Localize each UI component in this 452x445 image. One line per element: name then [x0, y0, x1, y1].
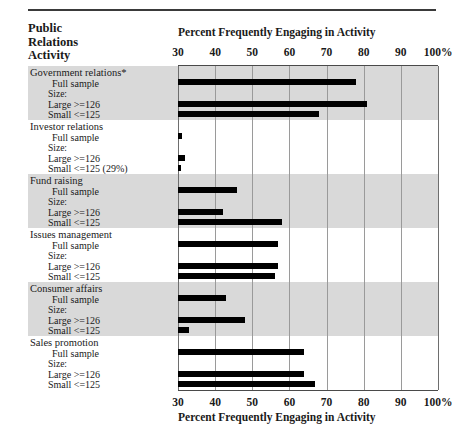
bar — [178, 219, 282, 225]
activity-group-label: Government relations*Full sampleSize:Lar… — [28, 68, 178, 121]
bar — [178, 209, 223, 215]
x-tick-label: 70 — [321, 46, 333, 58]
series-label-small: Small <=125 — [28, 218, 178, 229]
bar — [178, 241, 278, 247]
bar — [178, 155, 185, 161]
bar — [178, 133, 182, 139]
bar-row — [178, 317, 438, 323]
bar — [178, 165, 181, 171]
bar — [178, 371, 304, 377]
activity-name: Investor relations — [28, 122, 178, 133]
activity-name: Government relations* — [28, 68, 178, 79]
bar-row — [178, 273, 438, 279]
x-tick-label: 40 — [209, 396, 221, 408]
top-rule — [28, 9, 436, 11]
gridline — [438, 66, 439, 390]
series-label-small: Small <=125 — [28, 326, 178, 337]
bar-row — [178, 263, 438, 269]
bar-row — [178, 111, 438, 117]
x-tick-label: 70 — [321, 396, 333, 408]
series-label-full-sample: Full sample — [28, 79, 178, 90]
bar-row — [178, 349, 438, 355]
x-tick-label: 90 — [395, 396, 407, 408]
activity-label-column: Government relations*Full sampleSize:Lar… — [28, 66, 178, 390]
bar-row — [178, 165, 438, 171]
row-header-line-1: Public — [28, 22, 168, 36]
x-tick-label: 60 — [284, 396, 296, 408]
series-label-small: Small <=125 — [28, 272, 178, 283]
x-tick-label: 100% — [424, 46, 452, 58]
bar — [178, 317, 245, 323]
series-label-full-sample: Full sample — [28, 133, 178, 144]
bar-row — [178, 155, 438, 161]
x-tick-label: 50 — [247, 396, 259, 408]
x-tick-label: 50 — [247, 46, 259, 58]
axis-title-top: Percent Frequently Engaging in Activity — [178, 26, 444, 38]
bar-row — [178, 79, 438, 85]
bar — [178, 349, 304, 355]
bar-row — [178, 101, 438, 107]
series-label-small: Small <=125 — [28, 110, 178, 121]
bar — [178, 187, 237, 193]
activity-group-label: Consumer affairsFull sampleSize:Large >=… — [28, 284, 178, 337]
bar — [178, 295, 226, 301]
x-tick-label: 80 — [358, 396, 370, 408]
bar — [178, 263, 278, 269]
bar-row — [178, 219, 438, 225]
series-label-full-sample: Full sample — [28, 241, 178, 252]
series-label-small: Small <=125 (29%) — [28, 164, 178, 175]
bar — [178, 101, 367, 107]
bar-row — [178, 209, 438, 215]
series-label-small: Small <=125 — [28, 380, 178, 391]
bar — [178, 327, 189, 333]
axis-line-bottom — [178, 390, 438, 391]
series-label-full-sample: Full sample — [28, 349, 178, 360]
activity-group-label: Fund raisingFull sampleSize:Large >=126S… — [28, 176, 178, 229]
bar-row — [178, 381, 438, 387]
bar-row — [178, 327, 438, 333]
x-axis-ticks-top: 30405060708090100% — [0, 46, 448, 60]
bar-row — [178, 133, 438, 139]
activity-name: Sales promotion — [28, 338, 178, 349]
series-label-full-sample: Full sample — [28, 187, 178, 198]
x-tick-label: 30 — [172, 46, 184, 58]
x-axis-ticks-bottom: 30405060708090100% — [0, 396, 448, 410]
bar-row — [178, 241, 438, 247]
x-tick-label: 90 — [395, 46, 407, 58]
bar — [178, 111, 319, 117]
bar — [178, 79, 356, 85]
activity-group-label: Sales promotionFull sampleSize:Large >=1… — [28, 338, 178, 391]
axis-title-bottom: Percent Frequently Engaging in Activity — [178, 411, 444, 423]
bar-row — [178, 187, 438, 193]
bar-series — [178, 66, 438, 390]
activity-name: Consumer affairs — [28, 284, 178, 295]
bar-row — [178, 295, 438, 301]
activity-name: Issues management — [28, 230, 178, 241]
x-tick-label: 80 — [358, 46, 370, 58]
bar — [178, 381, 315, 387]
activity-group-label: Investor relationsFull sampleSize:Large … — [28, 122, 178, 175]
bar — [178, 273, 275, 279]
activity-name: Fund raising — [28, 176, 178, 187]
x-tick-label: 100% — [424, 396, 452, 408]
series-label-full-sample: Full sample — [28, 295, 178, 306]
activity-group-label: Issues managementFull sampleSize:Large >… — [28, 230, 178, 283]
x-tick-label: 40 — [209, 46, 221, 58]
x-tick-label: 30 — [172, 396, 184, 408]
bar-row — [178, 371, 438, 377]
x-tick-label: 60 — [284, 46, 296, 58]
